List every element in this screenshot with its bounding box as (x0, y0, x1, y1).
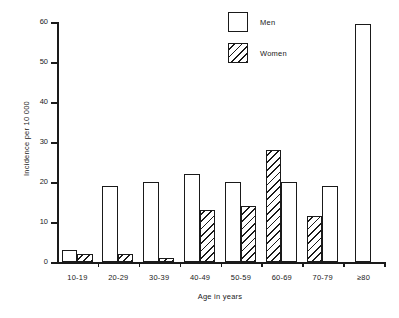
x-tick-label-40-49: 40-49 (190, 273, 210, 282)
chart-legend: Men Women (228, 12, 287, 74)
y-tick-label-30: 30 (40, 137, 48, 146)
bar-70-79-women (307, 216, 323, 262)
x-tick-label-60-69: 60-69 (272, 273, 292, 282)
x-tick-6 (343, 262, 345, 267)
y-tick-label-60: 60 (40, 17, 48, 26)
y-tick-30: 30 (51, 142, 57, 144)
x-tick-label-20-29: 20-29 (108, 273, 128, 282)
x-tick-label-30-39: 30-39 (149, 273, 169, 282)
incidence-by-age-bar-chart: Incidence per 10 000 0102030405060 10-19… (0, 0, 399, 318)
y-tick-50: 50 (51, 62, 57, 64)
x-tick-label-≥80: ≥80 (357, 273, 370, 282)
x-tick-7 (384, 262, 386, 267)
bar-10-19-men (62, 250, 78, 262)
y-tick-label-10: 10 (40, 217, 48, 226)
bar-≥80-men (355, 24, 371, 262)
legend-label-men: Men (260, 18, 275, 27)
x-tick-label-70-79: 70-79 (313, 273, 333, 282)
bar-30-39-men (143, 182, 159, 262)
bar-50-59-women (241, 206, 257, 262)
y-tick-label-40: 40 (40, 97, 48, 106)
y-tick-label-50: 50 (40, 57, 48, 66)
bar-20-29-men (102, 186, 118, 262)
x-tick-5 (302, 262, 304, 267)
x-tick-0 (98, 262, 100, 267)
x-tick-1 (139, 262, 141, 267)
bar-50-59-men (225, 182, 241, 262)
bar-40-49-men (184, 174, 200, 262)
y-tick-label-0: 0 (44, 257, 48, 266)
bar-60-69-men (281, 182, 297, 262)
x-axis-title: Age in years (55, 292, 385, 301)
y-tick-10: 10 (51, 222, 57, 224)
bar-40-49-women (200, 210, 216, 262)
bar-20-29-women (118, 254, 134, 262)
y-axis-title: Incidence per 10 000 (22, 59, 31, 219)
bar-10-19-women (77, 254, 93, 262)
y-tick-60: 60 (51, 22, 57, 24)
y-tick-20: 20 (51, 182, 57, 184)
y-axis-line (57, 22, 59, 263)
legend-swatch-men-icon (228, 12, 248, 32)
plot-area: 0102030405060 10-1920-2930-3940-4950-596… (57, 22, 384, 262)
x-tick-label-10-19: 10-19 (67, 273, 87, 282)
x-tick-3 (221, 262, 223, 267)
y-tick-label-20: 20 (40, 177, 48, 186)
bar-30-39-women (159, 258, 175, 262)
legend-item-women: Women (228, 43, 287, 63)
legend-swatch-women-icon (228, 43, 248, 63)
y-tick-0: 0 (51, 262, 57, 264)
legend-item-men: Men (228, 12, 287, 32)
x-tick-2 (180, 262, 182, 267)
x-tick-label-50-59: 50-59 (231, 273, 251, 282)
legend-label-women: Women (260, 49, 287, 58)
y-tick-40: 40 (51, 102, 57, 104)
bar-70-79-men (322, 186, 338, 262)
x-tick-4 (261, 262, 263, 267)
bar-60-69-women (266, 150, 282, 262)
